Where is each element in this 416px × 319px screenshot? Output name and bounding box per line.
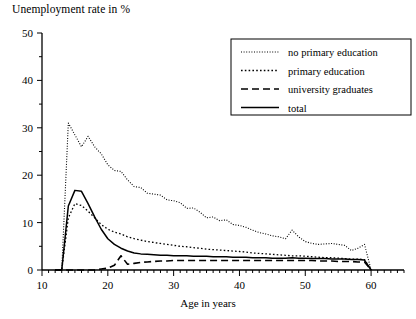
- series-line-3: [55, 190, 371, 270]
- x-tick-label: 50: [300, 279, 312, 291]
- legend-label-0: no primary education: [288, 47, 379, 58]
- y-tick-label: 10: [22, 217, 34, 229]
- chart-container: Unemployment rate in % Age in years 0102…: [0, 0, 416, 319]
- y-tick-label: 20: [22, 169, 34, 181]
- x-tick-label: 20: [102, 279, 114, 291]
- y-axis: 01020304050: [22, 27, 42, 276]
- x-axis: 102030405060: [37, 270, 405, 291]
- x-tick-label: 10: [37, 279, 49, 291]
- legend-label-1: primary education: [288, 66, 365, 77]
- legend-label-2: university graduates: [288, 84, 373, 95]
- x-tick-label: 60: [366, 279, 378, 291]
- x-tick-label: 40: [234, 279, 246, 291]
- y-tick-label: 0: [28, 264, 34, 276]
- y-tick-label: 50: [22, 27, 34, 39]
- x-tick-label: 30: [168, 279, 180, 291]
- y-tick-label: 30: [22, 122, 34, 134]
- series-line-0: [55, 123, 371, 270]
- plot-area: 01020304050 102030405060 no primary educ…: [0, 0, 416, 319]
- chart-legend: no primary educationprimary educationuni…: [231, 39, 411, 115]
- data-series-group: [55, 123, 371, 270]
- legend-label-3: total: [288, 103, 307, 114]
- y-tick-label: 40: [22, 74, 34, 86]
